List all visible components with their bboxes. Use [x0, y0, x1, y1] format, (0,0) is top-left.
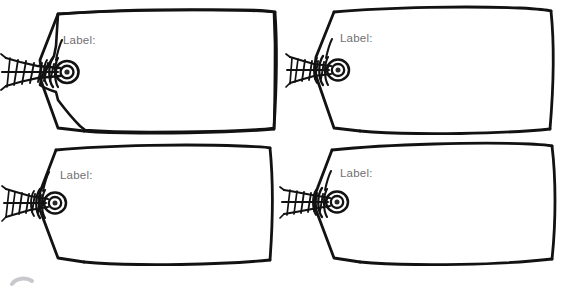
tag-body-fill-icon — [315, 144, 554, 264]
tag-body-fill-icon — [315, 9, 552, 132]
tag-body-fill-icon — [39, 146, 272, 264]
tag-label-top-right: Label: — [340, 33, 373, 45]
tag-bottom-left[interactable] — [2, 145, 272, 265]
tag-label-bottom-right: Label: — [340, 168, 373, 180]
partial-gray-arc-icon — [12, 279, 32, 284]
grommet-eyelet-icon — [44, 193, 66, 214]
tag-top-right[interactable] — [286, 7, 553, 134]
grommet-eyelet-icon — [327, 60, 349, 81]
grommet-eyelet-icon — [326, 192, 348, 213]
tag-label-bottom-left: Label: — [60, 170, 93, 182]
tag-sheet-canvas: Label: Label: Label: Label: — [0, 0, 568, 288]
tag-label-top-left: Label: — [63, 35, 96, 47]
tag-bottom-right[interactable] — [280, 143, 555, 264]
tag-top-left[interactable] — [1, 10, 276, 133]
